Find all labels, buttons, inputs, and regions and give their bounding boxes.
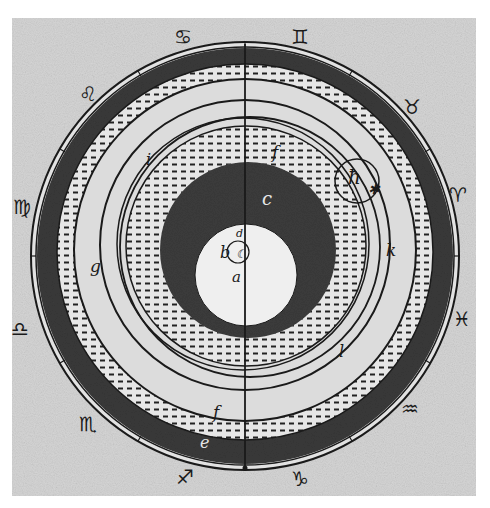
moon-icon: ☾	[236, 247, 247, 261]
zodiac-gemini-icon: ♊	[291, 25, 309, 49]
zodiac-aries-icon: ♈	[449, 183, 467, 207]
zodiac-sagittarius-icon: ♐	[176, 465, 194, 489]
zodiac-aquarius-icon: ♒	[401, 397, 419, 421]
label-c-top: c	[262, 188, 272, 209]
star-icon: ✱	[368, 181, 381, 197]
label-c-bottom: e	[200, 433, 209, 452]
zodiac-taurus-icon: ♉	[403, 95, 421, 119]
cosmology-diagram: ♋♊♉♌♈♍♓♎♒♏♑♐ abdceffgiklħ ✱ ☾	[0, 0, 490, 508]
zodiac-capricorn-icon: ♑	[291, 467, 309, 491]
zodiac-leo-icon: ♌	[79, 82, 97, 106]
axis-bottom-dot	[243, 466, 248, 471]
zodiac-pisces-icon: ♓	[453, 307, 471, 331]
zodiac-virgo-icon: ♍	[13, 195, 31, 219]
label-d: d	[236, 227, 243, 240]
label-g: g	[90, 256, 101, 276]
zodiac-libra-icon: ♎	[11, 317, 29, 341]
label-l: l	[339, 342, 344, 361]
zodiac-cancer-icon: ♋	[174, 25, 192, 49]
label-k: k	[386, 240, 396, 260]
zodiac-scorpio-icon: ♏	[79, 412, 97, 436]
label-b: b	[220, 243, 230, 262]
center-earth-circle	[195, 224, 297, 326]
label-a: a	[232, 268, 241, 286]
label-i: i	[146, 150, 151, 169]
label-h: ħ	[348, 165, 361, 189]
